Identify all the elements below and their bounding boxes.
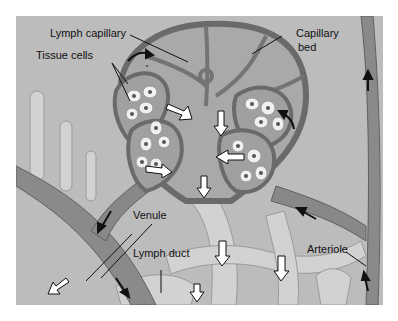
label-tissue-cells: Tissue cells xyxy=(36,49,93,61)
label-lymph-capillary: Lymph capillary xyxy=(50,27,126,39)
label-capillary-bed: Capillary xyxy=(296,27,339,39)
lymphatic-diagram: Lymph capillary Tissue cells Capillary b… xyxy=(16,16,383,305)
label-lymph-duct: Lymph duct xyxy=(133,247,189,259)
label-arteriole: Arteriole xyxy=(307,243,348,255)
label-venule: Venule xyxy=(133,209,167,221)
label-capillary-bed-line2: bed xyxy=(298,41,316,53)
